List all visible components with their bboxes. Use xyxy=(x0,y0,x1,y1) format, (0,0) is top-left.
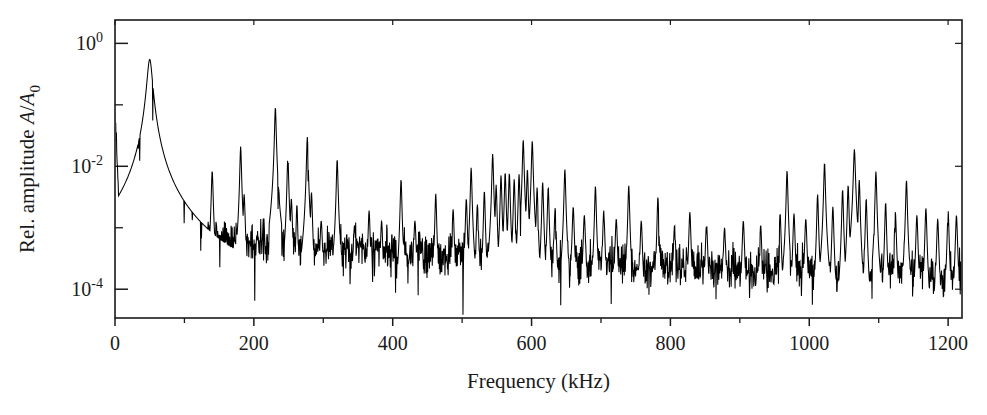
x-axis-label: Frequency (kHz) xyxy=(467,369,610,393)
spectrum-figure: 020040060080010001200 10010-210-4 Freque… xyxy=(0,0,987,415)
svg-text:1000: 1000 xyxy=(789,332,829,354)
svg-text:Rel. amplitude A/A0: Rel. amplitude A/A0 xyxy=(15,85,43,253)
svg-text:400: 400 xyxy=(378,332,408,354)
svg-text:200: 200 xyxy=(239,332,269,354)
figure-background xyxy=(0,0,987,415)
spectrum-plot: 020040060080010001200 10010-210-4 Freque… xyxy=(0,0,987,415)
y-axis-label: Rel. amplitude A/A0 xyxy=(15,85,43,253)
svg-text:Frequency (kHz): Frequency (kHz) xyxy=(467,369,610,393)
svg-text:800: 800 xyxy=(655,332,685,354)
svg-text:0: 0 xyxy=(110,332,120,354)
svg-text:1200: 1200 xyxy=(928,332,968,354)
svg-text:600: 600 xyxy=(517,332,547,354)
